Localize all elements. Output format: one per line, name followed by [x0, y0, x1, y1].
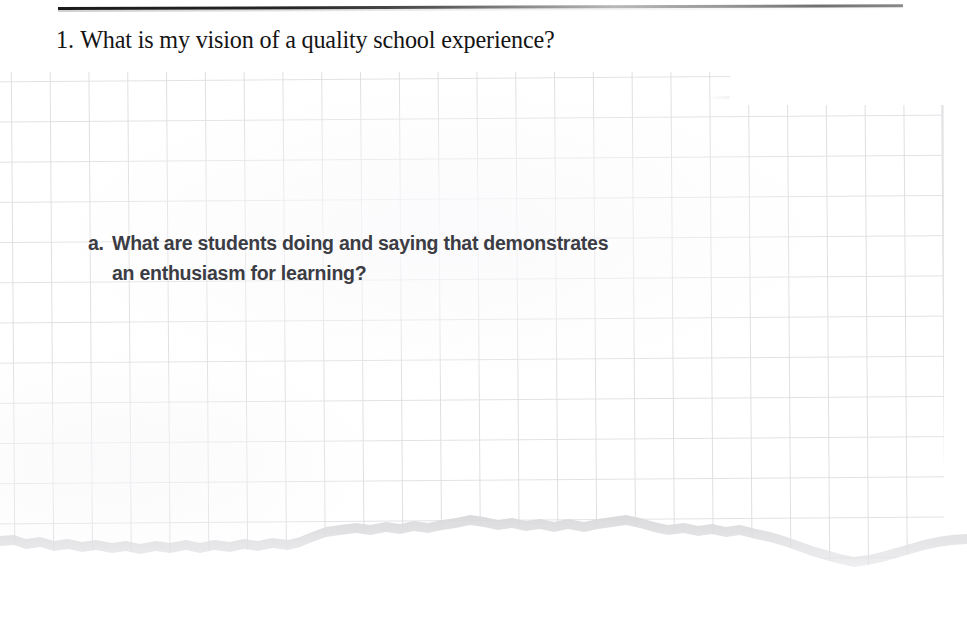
worksheet-page: 1.What is my vision of a quality school … [0, 0, 967, 630]
sub-question-line-1: What are students doing and saying that … [88, 228, 708, 258]
graph-paper-region [0, 72, 967, 630]
top-horizontal-rule [58, 4, 903, 10]
question-heading: 1.What is my vision of a quality school … [56, 24, 707, 56]
sub-question-line-2: an enthusiasm for learning? [88, 258, 708, 288]
top-right-white-mask [730, 72, 967, 105]
question-number: 1. [56, 24, 80, 56]
right-white-mask [944, 72, 967, 630]
question-text: What is my vision of a quality school ex… [80, 25, 554, 54]
graph-paper-grid [0, 72, 949, 630]
sub-question-marker: a. [88, 228, 104, 258]
graph-paper-sheet [0, 72, 949, 630]
sub-question: a. What are students doing and saying th… [88, 228, 708, 288]
